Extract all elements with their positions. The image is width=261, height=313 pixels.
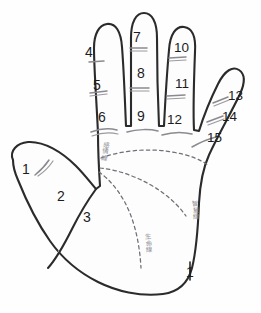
phalange-number-index-5: 5 <box>93 78 101 92</box>
hand-illustration <box>0 0 261 313</box>
phalange-number-middle-9: 9 <box>137 109 145 123</box>
phalange-number-thumb-3: 3 <box>83 210 91 224</box>
phalange-number-ring-10: 10 <box>174 41 189 55</box>
phalange-number-middle-8: 8 <box>137 66 145 80</box>
phalange-number-little-13: 13 <box>228 89 243 103</box>
ring-crease-distal <box>169 57 186 58</box>
life-line-label: 生命線 <box>142 233 151 253</box>
ring-crease-middle <box>167 95 185 96</box>
phalange-number-little-14: 14 <box>222 110 237 124</box>
phalange-number-ring-12: 12 <box>167 113 182 127</box>
palm-edge-number-1: 1 <box>186 265 194 279</box>
phalange-number-thumb-2: 2 <box>57 189 65 203</box>
phalange-number-middle-7: 7 <box>133 30 141 44</box>
heart-line-label: 感情線 <box>99 141 109 161</box>
hand-diagram: 1 2 3 4 5 6 7 8 9 10 11 12 13 14 15 1 感情… <box>0 0 261 313</box>
phalange-number-index-6: 6 <box>98 110 106 124</box>
phalange-number-index-4: 4 <box>85 45 93 59</box>
hand-outline <box>12 13 244 295</box>
index-crease-distal <box>89 61 104 62</box>
phalange-number-little-15: 15 <box>207 131 222 145</box>
phalange-number-thumb-1: 1 <box>22 162 30 176</box>
phalange-number-ring-11: 11 <box>175 77 189 91</box>
head-line-label: 智慧線 <box>189 200 198 220</box>
